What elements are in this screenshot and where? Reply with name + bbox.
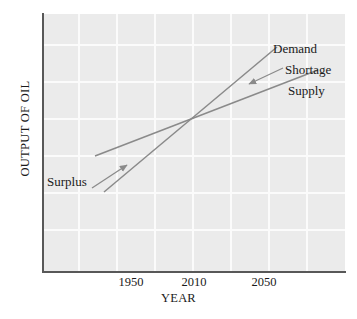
gridline-vertical [154, 14, 156, 272]
annotation-label-surplus: Surplus [47, 174, 87, 190]
gridline-vertical [192, 14, 194, 272]
chart-figure: Demand Shortage Supply Surplus 1950 2010… [0, 0, 357, 319]
gridline-horizontal [43, 192, 345, 194]
gridline-vertical [230, 14, 232, 272]
gridline-vertical [116, 14, 118, 272]
x-axis-line [42, 271, 346, 273]
series-label-supply: Supply [288, 83, 325, 99]
gridline-horizontal [43, 229, 345, 231]
x-tick-label-2050: 2050 [252, 275, 277, 290]
gridline-vertical [78, 14, 80, 272]
x-axis-title: YEAR [0, 291, 357, 306]
gridline-horizontal [43, 155, 345, 157]
annotation-label-shortage: Shortage [285, 62, 331, 78]
y-axis-line [42, 13, 44, 273]
series-label-demand: Demand [273, 41, 317, 57]
x-tick-label-2010: 2010 [182, 275, 207, 290]
gridline-vertical [268, 14, 270, 272]
x-tick-label-1950: 1950 [119, 275, 144, 290]
y-axis-title: OUTPUT OF OIL [18, 54, 33, 204]
gridline-horizontal [43, 118, 345, 120]
